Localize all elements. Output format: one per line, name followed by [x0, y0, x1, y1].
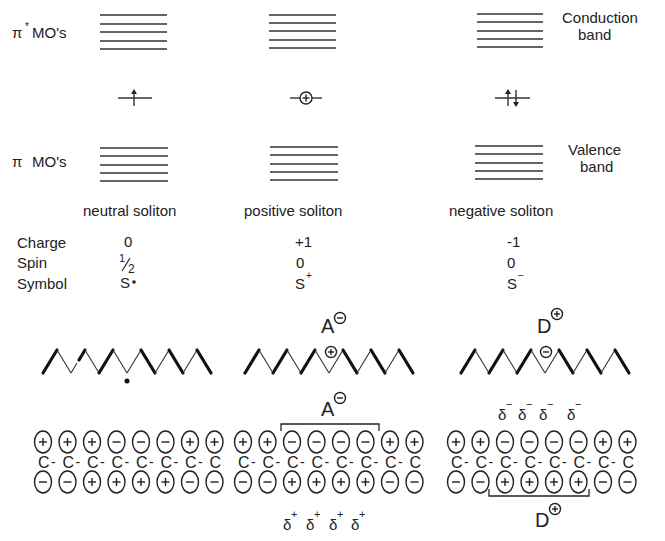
orbital-column-0: C-C-C-C-C-C-C-C — [35, 431, 224, 493]
soliton-diagram: π * MO's π MO's Conduction band Valence … — [0, 0, 665, 541]
donor-label: D — [537, 309, 563, 338]
p-orbital-lobe-top-minus-icon — [133, 431, 150, 453]
p-orbital-lobe-top-minus-icon — [521, 431, 538, 453]
p-orbital-lobe-bottom-plus-icon — [570, 471, 587, 493]
carbon-atom: C — [87, 454, 99, 471]
svg-text:−: − — [518, 270, 524, 281]
svg-text:−: − — [526, 398, 532, 410]
pi-star-superscript: * — [25, 21, 29, 32]
p-orbital-lobe-top-plus-icon — [259, 431, 276, 453]
neutral-symbol: S — [120, 274, 136, 291]
radical-dot — [125, 379, 130, 384]
carbon-atom: C — [263, 454, 275, 471]
carbon-atom: C — [385, 454, 397, 471]
carbon-atom: C — [500, 454, 512, 471]
conduction-band-negative — [477, 14, 543, 47]
row-label-symbol: Symbol — [17, 275, 67, 292]
p-orbital-lobe-top-plus-icon — [35, 431, 52, 453]
carbon-atom: C — [476, 454, 488, 471]
p-orbital-lobe-top-minus-icon — [157, 431, 174, 453]
single-bond: - — [513, 454, 518, 470]
carbon-atom: C — [525, 454, 537, 471]
single-bond: - — [276, 454, 281, 470]
carbon-atom: C — [185, 454, 197, 471]
p-orbital-lobe-top-minus-icon — [570, 431, 587, 453]
carbon-atom: C — [574, 454, 586, 471]
single-bond: - — [149, 454, 154, 470]
neutral-polyacetylene-chain — [43, 350, 211, 384]
chain-negative-charge-icon — [541, 347, 552, 358]
p-orbital-lobe-top-plus-icon — [182, 431, 199, 453]
pi-mos: MO's — [32, 153, 67, 170]
svg-text:−: − — [506, 398, 512, 410]
carbon-atom: C — [410, 454, 422, 471]
svg-text:−: − — [547, 398, 553, 410]
spin-down-arrow-icon — [513, 102, 519, 107]
conduction-band-label-2: band — [578, 26, 611, 43]
single-bond: - — [125, 454, 130, 470]
p-orbital-lobe-top-minus-icon — [333, 431, 350, 453]
carbon-atom: C — [238, 454, 250, 471]
svg-text:+: + — [359, 508, 365, 520]
positive-spin: 0 — [296, 254, 304, 271]
p-orbital-lobe-top-plus-icon — [472, 431, 489, 453]
carbon-atom: C — [112, 454, 124, 471]
pi-star-symbol: π — [12, 24, 22, 41]
midgap-negative — [495, 89, 530, 107]
single-bond: - — [398, 454, 403, 470]
single-bond: - — [611, 454, 616, 470]
negative-spin: 0 — [507, 254, 515, 271]
p-orbital-lobe-bottom-plus-icon — [157, 471, 174, 493]
p-orbital-lobe-bottom-minus-icon — [235, 471, 252, 493]
svg-text:+: + — [337, 508, 343, 520]
carbon-atom: C — [598, 454, 610, 471]
pi-star-label: π * MO's — [12, 21, 67, 41]
carbon-atom: C — [623, 454, 635, 471]
carbon-atom: C — [312, 454, 324, 471]
carbon-atom: C — [63, 454, 75, 471]
pi-label: π MO's — [12, 153, 67, 170]
svg-text:S: S — [295, 275, 305, 292]
neutral-spin: 1 2 — [119, 252, 135, 276]
svg-text:S: S — [120, 274, 130, 291]
p-orbital-lobe-top-plus-icon — [619, 431, 636, 453]
single-bond: - — [374, 454, 379, 470]
p-orbital-lobe-bottom-plus-icon — [497, 471, 514, 493]
carbon-atom: C — [549, 454, 561, 471]
p-orbital-lobe-bottom-plus-icon — [308, 471, 325, 493]
acceptor-label: A — [321, 313, 346, 338]
single-bond: - — [489, 454, 494, 470]
acceptor-bracket — [281, 424, 379, 431]
svg-text:A: A — [321, 315, 335, 337]
valence-band-label-2: band — [580, 158, 613, 175]
p-orbital-lobe-bottom-minus-icon — [182, 471, 199, 493]
single-bond: - — [51, 454, 56, 470]
p-orbital-lobe-bottom-plus-icon — [521, 471, 538, 493]
carbon-atom: C — [287, 454, 299, 471]
carbon-atom: C — [336, 454, 348, 471]
p-orbital-lobe-bottom-minus-icon — [35, 471, 52, 493]
p-orbital-lobe-top-plus-icon — [59, 431, 76, 453]
p-orbital-lobe-top-plus-icon — [84, 431, 101, 453]
p-orbital-lobe-bottom-plus-icon — [108, 471, 125, 493]
p-orbital-lobe-top-minus-icon — [497, 431, 514, 453]
row-label-spin: Spin — [17, 254, 47, 271]
p-orbital-lobe-bottom-minus-icon — [448, 471, 465, 493]
conduction-band-neutral — [100, 15, 167, 49]
p-orbital-lobe-top-plus-icon — [595, 431, 612, 453]
positive-polyacetylene-chain — [245, 347, 413, 374]
positive-symbol: S + — [295, 270, 312, 292]
p-orbital-lobe-top-minus-icon — [108, 431, 125, 453]
acceptor-orbital-label: A — [281, 393, 379, 432]
valence-band-negative — [475, 146, 543, 179]
carbon-atom: C — [136, 454, 148, 471]
neutral-soliton-title: neutral soliton — [83, 202, 176, 219]
conduction-band-positive — [269, 15, 336, 48]
p-orbital-lobe-bottom-plus-icon — [133, 471, 150, 493]
positive-charge: +1 — [295, 233, 312, 250]
p-orbital-lobe-bottom-plus-icon — [357, 471, 374, 493]
single-bond: - — [198, 454, 203, 470]
p-orbital-lobe-bottom-minus-icon — [59, 471, 76, 493]
single-bond: - — [300, 454, 305, 470]
p-orbital-lobe-top-plus-icon — [448, 431, 465, 453]
